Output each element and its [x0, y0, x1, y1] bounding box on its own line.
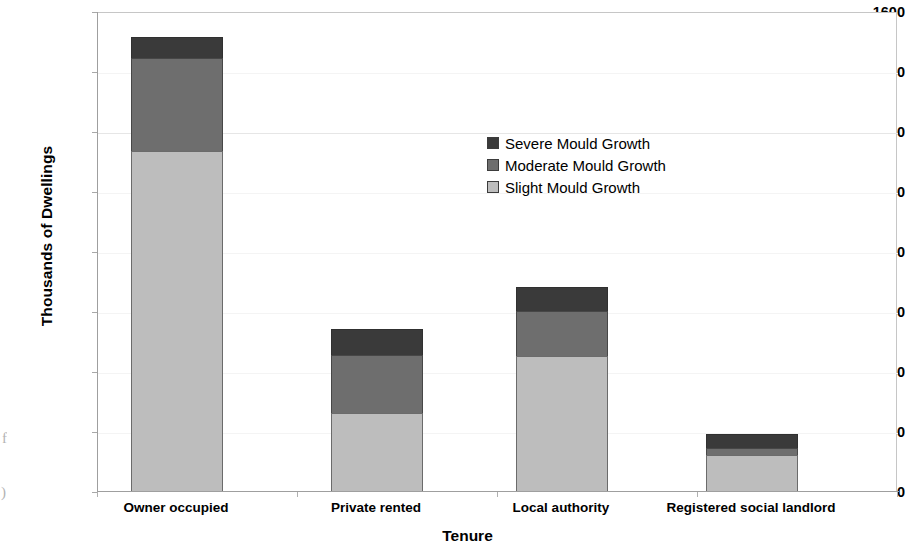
bar-segment[interactable]: [516, 356, 608, 491]
legend-swatch: [487, 159, 499, 171]
bar-segment[interactable]: [331, 355, 423, 414]
legend-item[interactable]: Slight Mould Growth: [487, 176, 666, 198]
x-tick-mark: [97, 492, 98, 497]
page-edge-artifact-paren: ): [1, 484, 6, 501]
bar-segment[interactable]: [131, 58, 223, 151]
bar-segment[interactable]: [516, 311, 608, 356]
chart-figure: f ) Thousands of Dwellings 1600140012001…: [0, 0, 905, 555]
bar-segment[interactable]: [706, 448, 798, 456]
legend-item[interactable]: Severe Mould Growth: [487, 132, 666, 154]
x-axis-title: Tenure: [0, 527, 905, 545]
plot-area: Severe Mould GrowthModerate Mould Growth…: [97, 12, 897, 492]
bar-segment[interactable]: [331, 329, 423, 355]
bar-segment[interactable]: [706, 455, 798, 491]
page-edge-artifact-f: f: [2, 430, 7, 447]
legend-swatch: [487, 137, 499, 149]
y-axis-title: Thousands of Dwellings: [38, 111, 56, 361]
x-tick-label: Registered social landlord: [601, 500, 901, 515]
legend-swatch: [487, 181, 499, 193]
bar-segment[interactable]: [331, 413, 423, 491]
chart-legend: Severe Mould GrowthModerate Mould Growth…: [487, 132, 666, 198]
x-tick-mark: [297, 492, 298, 497]
bar-segment[interactable]: [516, 287, 608, 311]
x-tick-mark: [697, 492, 698, 497]
bar-segment[interactable]: [131, 37, 223, 58]
bar-segment[interactable]: [131, 151, 223, 492]
legend-label: Moderate Mould Growth: [505, 157, 666, 174]
x-axis-line: [97, 491, 899, 492]
bar-segment[interactable]: [706, 434, 798, 448]
x-tick-mark: [497, 492, 498, 497]
x-axis-title-text: Tenure: [442, 527, 493, 544]
legend-label: Slight Mould Growth: [505, 179, 640, 196]
x-tick-mark: [897, 492, 898, 497]
legend-label: Severe Mould Growth: [505, 135, 650, 152]
legend-item[interactable]: Moderate Mould Growth: [487, 154, 666, 176]
